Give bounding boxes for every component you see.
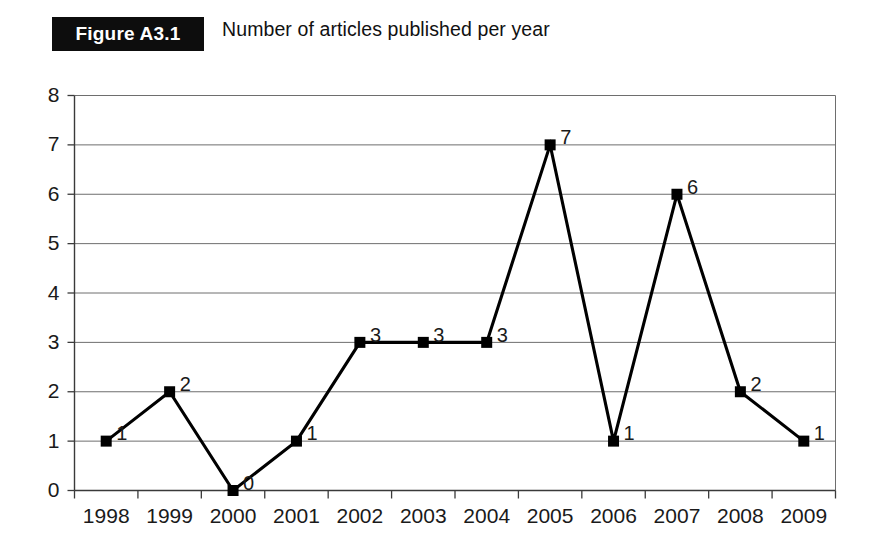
data-point-2008[interactable] [735, 386, 746, 397]
x-axis-label-2004: 2004 [463, 504, 510, 527]
x-axis-label-2008: 2008 [717, 504, 764, 527]
data-label-2009: 1 [814, 422, 825, 444]
y-axis-label-8: 8 [48, 83, 60, 106]
y-axis-label-2: 2 [48, 379, 60, 402]
x-tickmarks-group [75, 491, 836, 499]
data-label-2008: 2 [750, 373, 761, 395]
data-point-2003[interactable] [418, 337, 429, 348]
series-markers-group [101, 139, 810, 496]
x-axis-labels-group: 1998199920002001200220032004200520062007… [83, 504, 827, 527]
data-label-1998: 1 [116, 422, 127, 444]
data-point-2000[interactable] [228, 485, 239, 496]
figure-header: Figure A3.1 Number of articles published… [0, 0, 877, 72]
data-labels-group: 120133371621 [116, 126, 825, 494]
series-line-number-of-articles [106, 145, 804, 491]
x-axis-label-2000: 2000 [210, 504, 257, 527]
figure-container: Figure A3.1 Number of articles published… [0, 0, 877, 557]
data-point-2002[interactable] [354, 337, 365, 348]
data-label-2002: 3 [370, 324, 381, 346]
x-axis-label-2005: 2005 [527, 504, 574, 527]
data-label-2001: 1 [306, 422, 317, 444]
data-point-2005[interactable] [545, 139, 556, 150]
data-point-2007[interactable] [671, 189, 682, 200]
series-line-group [106, 145, 804, 491]
x-axis-label-2006: 2006 [590, 504, 637, 527]
y-axis-labels-group: 012345678 [48, 83, 60, 501]
data-label-2000: 0 [243, 472, 254, 494]
data-label-2004: 3 [497, 324, 508, 346]
data-point-2001[interactable] [291, 436, 302, 447]
y-axis-label-0: 0 [48, 478, 60, 501]
data-label-2006: 1 [624, 422, 635, 444]
figure-tag-box: Figure A3.1 [52, 17, 204, 51]
gridlines-group [75, 96, 836, 491]
figure-title: Number of articles published per year [222, 18, 550, 41]
data-label-1999: 2 [180, 373, 191, 395]
y-axis-label-3: 3 [48, 330, 60, 353]
data-point-2004[interactable] [481, 337, 492, 348]
data-point-2006[interactable] [608, 436, 619, 447]
data-label-2007: 6 [687, 176, 698, 198]
x-axis-label-2009: 2009 [780, 504, 827, 527]
data-point-1999[interactable] [164, 386, 175, 397]
chart-canvas: 012345678 199819992000200120022003200420… [0, 72, 877, 557]
x-axis-label-1999: 1999 [146, 504, 193, 527]
x-axis-label-2001: 2001 [273, 504, 320, 527]
x-axis-label-2002: 2002 [337, 504, 384, 527]
data-label-2005: 7 [560, 126, 571, 148]
x-axis-label-2003: 2003 [400, 504, 447, 527]
x-axis-label-2007: 2007 [654, 504, 701, 527]
data-label-2003: 3 [433, 324, 444, 346]
y-axis-label-5: 5 [48, 231, 60, 254]
line-chart: 012345678 199819992000200120022003200420… [0, 72, 877, 557]
y-axis-label-1: 1 [48, 429, 60, 452]
data-point-1998[interactable] [101, 436, 112, 447]
y-axis-label-6: 6 [48, 182, 60, 205]
figure-tag-label: Figure A3.1 [76, 23, 181, 45]
y-tickmarks-group [68, 96, 75, 491]
y-axis-label-7: 7 [48, 132, 60, 155]
y-axis-label-4: 4 [48, 281, 60, 304]
x-axis-label-1998: 1998 [83, 504, 130, 527]
data-point-2009[interactable] [798, 436, 809, 447]
